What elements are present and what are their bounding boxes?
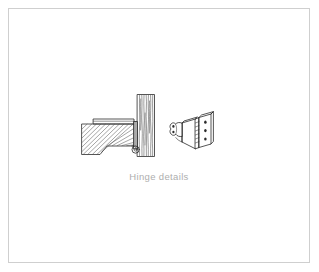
- horizontal-blocking-hatching: [82, 124, 134, 154]
- hinge-leaf-isometric-drawing: [166, 108, 218, 156]
- jamb-wood-grain: [139, 95, 153, 156]
- figure-caption: Hinge details: [8, 171, 310, 182]
- screw-holes-right-plate: [204, 121, 207, 141]
- hinge-section-through-jamb-drawing: [80, 93, 158, 165]
- jamb-hinge-leaf: [134, 122, 138, 150]
- figure-content-area: Hinge details: [8, 8, 310, 263]
- stop-bead: [94, 119, 135, 124]
- hinge-strap-leaf: [170, 123, 182, 142]
- jamb-member-outline: [138, 95, 155, 157]
- drawing-canvas: [8, 8, 310, 263]
- screw-holes-strap-leaf: [172, 125, 174, 133]
- figure-page: Hinge details: [0, 0, 319, 272]
- hinge-knuckle-barrel: [195, 118, 199, 149]
